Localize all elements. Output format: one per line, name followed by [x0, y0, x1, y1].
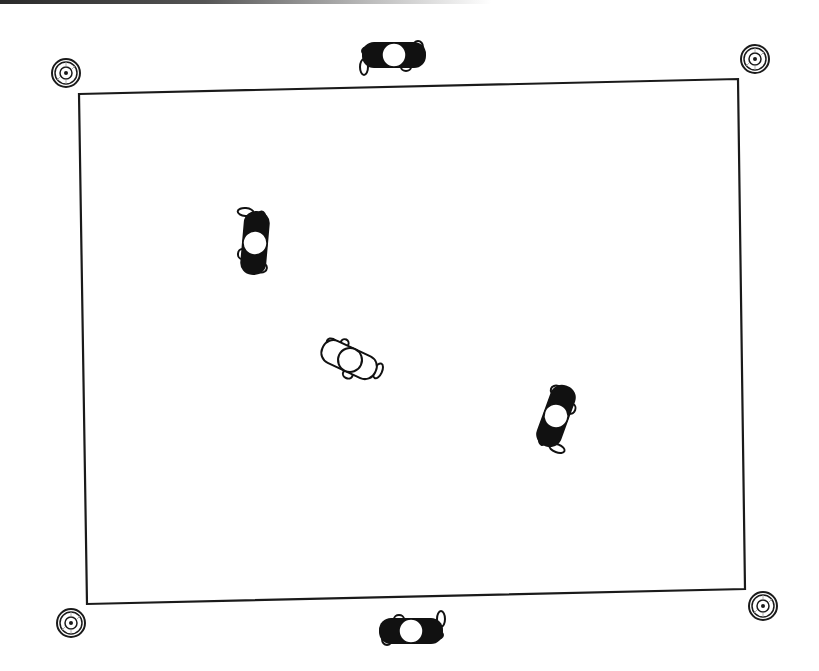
corner-marker-top-left-icon	[52, 59, 80, 87]
corner-marker-bottom-left-icon	[57, 609, 85, 637]
player-top-dark-icon	[360, 41, 426, 75]
player-left-dark-icon	[232, 207, 272, 276]
corner-marker-bottom-right-icon	[749, 592, 777, 620]
field-boundary	[79, 79, 745, 604]
field-diagram	[0, 0, 819, 671]
corner-marker-top-right-icon	[741, 45, 769, 73]
player-right-dark-icon	[531, 381, 586, 455]
player-bottom-dark-icon	[379, 611, 445, 645]
player-center-light-icon	[315, 332, 388, 391]
